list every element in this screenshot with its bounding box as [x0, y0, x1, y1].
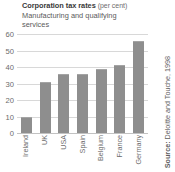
- x-axis-label-wrap: Germany: [133, 134, 144, 172]
- x-axis-label-wrap: France: [114, 134, 125, 172]
- bar: [96, 69, 107, 133]
- x-axis-tick-label: Spain: [79, 135, 86, 153]
- chart-figure: Corporation tax rates (per cent) Manufac…: [0, 0, 175, 172]
- x-axis-tick-label: USA: [60, 135, 67, 150]
- chart-title-main: Corporation tax rates: [22, 1, 96, 10]
- y-axis-tick-label: 0: [10, 129, 14, 138]
- x-axis-tick-label: Belgium: [98, 135, 105, 161]
- chart-subtitle-line2: services: [22, 20, 150, 30]
- x-axis-labels: IrelandUKUSASpainBelgiumFranceGermany: [17, 134, 148, 172]
- source-note: Source: Deloitte and Touche, 1998: [164, 56, 171, 168]
- x-axis-label-wrap: Spain: [77, 134, 88, 172]
- x-axis-tick-label: Ireland: [23, 135, 30, 157]
- bar: [21, 117, 32, 134]
- chart-title-block: Corporation tax rates (per cent) Manufac…: [22, 1, 150, 30]
- y-axis-tick-label: 40: [6, 63, 14, 72]
- x-axis-label-wrap: Ireland: [21, 134, 32, 172]
- bar: [58, 74, 69, 133]
- x-axis-tick-label: UK: [41, 135, 48, 145]
- bar: [40, 82, 51, 133]
- bar: [133, 41, 144, 133]
- source-note-wrap: Source: Deloitte and Touche, 1998: [162, 18, 174, 168]
- y-axis-tick-label: 60: [6, 30, 14, 39]
- x-axis-label-wrap: USA: [58, 134, 69, 172]
- y-axis-tick-label: 50: [6, 46, 14, 55]
- y-axis-tick-label: 20: [6, 96, 14, 105]
- chart-subtitle-line1: Manufacturing and qualifying: [22, 11, 150, 21]
- y-axis-tick-label: 30: [6, 79, 14, 88]
- x-axis-label-wrap: UK: [40, 134, 51, 172]
- source-body: Deloitte and Touche, 1998: [163, 56, 172, 139]
- y-axis-tick-label: 10: [6, 112, 14, 121]
- bar-series: [17, 34, 148, 133]
- bar: [114, 65, 125, 133]
- x-axis-label-wrap: Belgium: [96, 134, 107, 172]
- x-axis-tick-label: Germany: [135, 135, 142, 165]
- bar: [77, 74, 88, 133]
- chart-title-unit: (per cent): [98, 2, 127, 9]
- x-axis-tick-label: France: [116, 135, 123, 157]
- plot-area: 0102030405060: [17, 34, 148, 133]
- chart-title: Corporation tax rates (per cent): [22, 1, 150, 11]
- source-prefix: Source:: [163, 141, 172, 168]
